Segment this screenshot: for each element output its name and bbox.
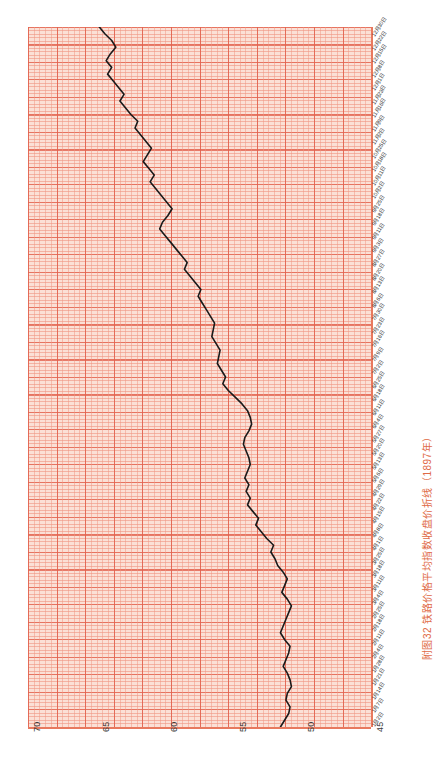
plot-area <box>28 27 371 727</box>
chart-caption: 附图32 铁路价格平均指数收盘价折线（1897年） <box>419 431 434 660</box>
date-tick-labels: 12月30日12月22日12月15日12月8日12月1日11月23日11月16日… <box>373 27 419 727</box>
value-axis-line <box>28 727 371 729</box>
series-line-chart <box>28 27 371 727</box>
chart-page: 706560555045 12月30日12月22日12月15日12月8日12月1… <box>0 0 446 774</box>
value-tick-60: 60 <box>169 721 179 732</box>
value-tick-65: 65 <box>101 721 111 732</box>
value-tick-70: 70 <box>32 721 42 732</box>
value-tick-50: 50 <box>306 721 316 732</box>
series-polyline <box>99 27 291 727</box>
value-tick-55: 55 <box>238 721 248 732</box>
